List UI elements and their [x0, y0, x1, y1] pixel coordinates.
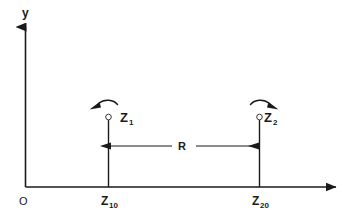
y-axis-label: y — [22, 6, 29, 20]
particle-2-rotation-arrowhead — [267, 102, 279, 110]
origin-label: O — [19, 195, 28, 207]
tick-label-z20: Z — [252, 194, 259, 208]
axis-group — [26, 27, 337, 187]
particle-2-marker — [257, 114, 263, 120]
particle-2-label: Z — [264, 110, 272, 125]
dimension-R-group: R — [110, 140, 258, 152]
particle-1-group: Z 1 — [90, 100, 135, 187]
particle-1-marker — [106, 114, 112, 120]
x-tick-labels: Z 10 Z 20 — [101, 194, 269, 210]
particle-2-group: Z 2 — [251, 100, 279, 187]
particle-1-rotation-arrowhead — [90, 102, 102, 110]
particle-1-rotation-arc — [99, 100, 118, 104]
tick-label-z10: Z — [101, 194, 108, 208]
dimension-R-label: R — [178, 140, 186, 152]
tick-label-z10-subscript: 10 — [109, 201, 118, 210]
particle-1-label-subscript: 1 — [129, 118, 134, 127]
figure-container: y O Z 1 Z 2 — [0, 0, 356, 216]
particle-2-rotation-arc — [251, 100, 270, 104]
particle-1-label: Z — [120, 110, 128, 125]
diagram-canvas: y O Z 1 Z 2 — [0, 0, 356, 216]
tick-label-z20-subscript: 20 — [260, 201, 269, 210]
particle-2-label-subscript: 2 — [273, 118, 278, 127]
